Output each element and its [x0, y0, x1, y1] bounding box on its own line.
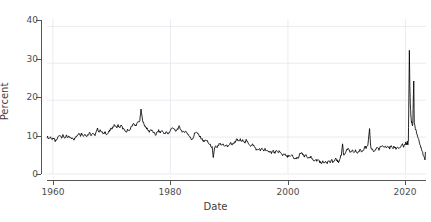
y-tick-label-0: 0: [32, 170, 38, 179]
chart-figure: Percent 40 30 20 10 0 1960 1980 2000 202…: [0, 0, 431, 222]
plot-area: [47, 19, 426, 174]
x-tick-mark-1960: [53, 180, 54, 185]
x-tick-label-2000: 2000: [277, 188, 300, 197]
series-line-chart: [47, 19, 426, 174]
y-tick-label-30: 30: [27, 55, 38, 64]
x-tick-mark-1980: [170, 180, 171, 185]
x-tick-label-2020: 2020: [394, 188, 417, 197]
y-axis-label: Percent: [0, 83, 10, 121]
y-axis-spine: [41, 20, 42, 174]
x-axis-label: Date: [0, 201, 431, 212]
y-tick-label-40: 40: [27, 16, 38, 25]
y-tick-label-10: 10: [27, 132, 38, 141]
x-tick-mark-2000: [288, 180, 289, 185]
y-tick-label-20: 20: [27, 93, 38, 102]
x-tick-mark-2020: [405, 180, 406, 185]
x-axis-spine: [47, 180, 426, 181]
x-tick-label-1960: 1960: [42, 188, 65, 197]
x-tick-label-1980: 1980: [159, 188, 182, 197]
series-path: [47, 50, 425, 163]
